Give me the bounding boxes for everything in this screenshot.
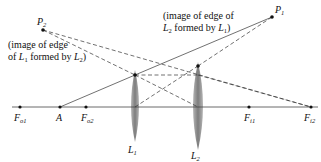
- point-fi2: [309, 105, 312, 108]
- label-fi2: Fi2: [303, 112, 316, 124]
- ray-p2-to-fi2: [43, 30, 311, 107]
- label-p2: P2: [36, 16, 47, 28]
- label-a: A: [55, 112, 63, 123]
- point-fi1: [247, 105, 250, 108]
- lens-ray-diagram: Fo1 A Fo2 Fi1 Fi2 P1 P2 L1 L2 (image of …: [0, 0, 321, 162]
- label-l2: L2: [190, 150, 201, 162]
- label-fi1: Fi1: [243, 112, 255, 124]
- annotation-p2-line1: (image of edge: [8, 39, 69, 51]
- annotation-p2-line2: of L1 formed by L2): [8, 51, 86, 63]
- point-fo2: [84, 105, 87, 108]
- lens-l1: [131, 70, 139, 142]
- point-l1-edge: [133, 73, 137, 77]
- label-l1: L1: [127, 144, 137, 156]
- point-p2: [41, 28, 45, 32]
- annotation-p1-line2: L2 formed by L1): [162, 22, 230, 34]
- point-a: [58, 105, 61, 108]
- label-p1: P1: [274, 4, 284, 16]
- ray-a-to-l1-edge: [60, 75, 135, 107]
- point-p1: [270, 15, 274, 19]
- ray-l2-edge-to-fi2: [198, 75, 311, 107]
- ray-l1-edge-to-l2-axis: [135, 75, 198, 107]
- label-fo1: Fo1: [13, 112, 27, 124]
- annotation-p1-line1: (image of edge of: [163, 10, 234, 22]
- point-l2-edge: [196, 64, 200, 68]
- label-fo2: Fo2: [80, 112, 94, 124]
- point-fo1: [18, 105, 21, 108]
